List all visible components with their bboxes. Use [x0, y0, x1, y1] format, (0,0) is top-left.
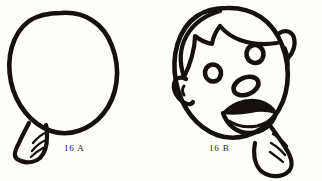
figure-16b: 16 B — [161, 0, 322, 181]
figure-plate: 16 A — [0, 0, 322, 181]
eye-right — [245, 43, 265, 64]
mouth-upper-lip — [223, 100, 276, 114]
figure-caption-16a: 16 A — [64, 144, 84, 153]
ear-inner — [183, 86, 185, 95]
face-illustration — [161, 0, 322, 181]
eye-left — [203, 63, 222, 83]
nose — [231, 73, 261, 99]
figure-16a: 16 A — [0, 0, 161, 181]
balloon-body — [9, 13, 117, 133]
balloon-illustration — [0, 0, 161, 181]
figure-caption-16b: 16 B — [209, 144, 229, 153]
